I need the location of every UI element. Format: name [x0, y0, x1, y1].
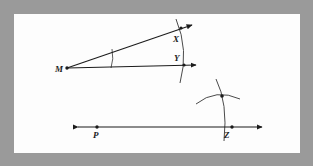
- point-m-dot: [65, 66, 68, 69]
- point-z-dot: [230, 125, 233, 128]
- point-p-dot: [95, 125, 98, 128]
- ray-m-lower: [67, 65, 196, 68]
- point-label-x: X: [172, 34, 180, 44]
- point-label-y: Y: [174, 53, 181, 63]
- point-label-m: M: [54, 64, 64, 74]
- point-y-dot: [182, 63, 185, 66]
- figure-canvas: M X Y P Z: [14, 14, 300, 153]
- geometry-diagram: M X Y P Z: [14, 14, 300, 153]
- arc-intersection-dot: [220, 94, 224, 98]
- point-label-p: P: [93, 130, 99, 140]
- point-x-dot: [179, 26, 182, 29]
- point-label-z: Z: [223, 130, 230, 140]
- arc-crossing: [196, 95, 240, 104]
- figure-frame: M X Y P Z: [0, 0, 313, 166]
